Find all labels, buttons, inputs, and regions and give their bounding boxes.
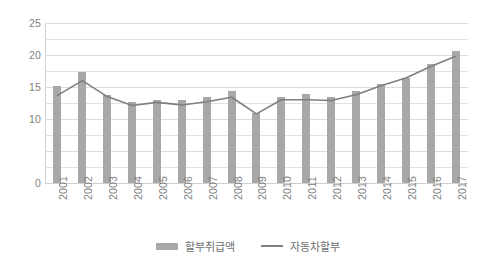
legend-bar-swatch-icon [156, 243, 178, 250]
x-axis-tick-label: 2013 [356, 176, 368, 200]
x-axis-tick-label: 2006 [182, 176, 194, 200]
bar[interactable] [78, 72, 86, 183]
x-axis-tick-slot: 2001 [45, 186, 70, 232]
x-axis-tick-slot: 2007 [194, 186, 219, 232]
bar-slot [443, 23, 468, 183]
x-axis-tick-slot: 2005 [145, 186, 170, 232]
legend-line-swatch-icon [261, 245, 283, 247]
chart-container: 010152025 200120022003200420052006200720… [0, 0, 496, 264]
y-axis-tick-label: 0 [7, 178, 41, 188]
bar-slot [368, 23, 393, 183]
bar[interactable] [427, 64, 435, 183]
legend-item-label: 할부취급액 [185, 238, 235, 254]
x-axis-tick-label: 2008 [232, 176, 244, 200]
x-axis-tick-slot: 2011 [294, 186, 319, 232]
x-axis-tick-label: 2010 [281, 176, 293, 200]
x-axis-tick-label: 2015 [406, 176, 418, 200]
x-axis-tick-slot: 2006 [169, 186, 194, 232]
bar-slot [219, 23, 244, 183]
bar[interactable] [203, 97, 211, 183]
x-axis-tick-slot: 2013 [344, 186, 369, 232]
plot-wrapper: 010152025 [0, 0, 496, 190]
x-axis-tick-slot: 2004 [120, 186, 145, 232]
y-axis-labels: 010152025 [0, 0, 41, 190]
bar[interactable] [302, 94, 310, 183]
legend-item-bar[interactable]: 할부취급액 [156, 238, 235, 254]
bar[interactable] [53, 86, 61, 183]
y-axis-tick-label: 15 [7, 82, 41, 92]
bar-slot [120, 23, 145, 183]
bar[interactable] [402, 78, 410, 183]
bar[interactable] [377, 84, 385, 183]
x-axis-tick-label: 2003 [107, 176, 119, 200]
x-axis-tick-label: 2014 [381, 176, 393, 200]
x-axis-tick-slot: 2009 [244, 186, 269, 232]
x-axis-tick-label: 2007 [207, 176, 219, 200]
x-axis-tick-slot: 2003 [95, 186, 120, 232]
x-axis-tick-label: 2004 [132, 176, 144, 200]
bar[interactable] [252, 113, 260, 183]
bar-slot [244, 23, 269, 183]
x-axis-tick-slot: 2002 [70, 186, 95, 232]
plot-area [45, 23, 468, 183]
bar-slot [393, 23, 418, 183]
x-axis-tick-label: 2012 [331, 176, 343, 200]
bar[interactable] [153, 100, 161, 183]
bar-slot [319, 23, 344, 183]
x-axis-tick-label: 2002 [82, 176, 94, 200]
x-axis-tick-label: 2016 [431, 176, 443, 200]
x-axis-tick-slot: 2010 [269, 186, 294, 232]
x-axis-tick-slot: 2008 [219, 186, 244, 232]
chart-legend: 할부취급액 자동차할부 [0, 236, 496, 256]
bar[interactable] [277, 97, 285, 183]
bar[interactable] [228, 91, 236, 183]
bar-slot [169, 23, 194, 183]
x-axis-tick-slot: 2012 [319, 186, 344, 232]
bar[interactable] [352, 91, 360, 183]
y-axis-tick-label: 20 [7, 50, 41, 60]
x-axis-tick-slot: 2014 [368, 186, 393, 232]
bar[interactable] [128, 102, 136, 183]
bar-slot [95, 23, 120, 183]
x-axis-tick-slot: 2017 [443, 186, 468, 232]
bar-slot [418, 23, 443, 183]
y-axis-tick-label: 10 [7, 114, 41, 124]
x-axis-tick-label: 2017 [456, 176, 468, 200]
bar[interactable] [327, 97, 335, 183]
bar-slot [45, 23, 70, 183]
bar[interactable] [103, 95, 111, 183]
bar-slot [194, 23, 219, 183]
x-axis-tick-slot: 2016 [418, 186, 443, 232]
x-axis-labels: 2001200220032004200520062007200820092010… [45, 186, 468, 232]
bar-slot [269, 23, 294, 183]
x-axis-tick-label: 2005 [157, 176, 169, 200]
x-axis-tick-slot: 2015 [393, 186, 418, 232]
bar[interactable] [178, 100, 186, 183]
legend-item-label: 자동차할부 [290, 238, 340, 254]
x-axis-tick-label: 2001 [57, 176, 69, 200]
x-axis-tick-label: 2009 [256, 176, 268, 200]
bar-slot [344, 23, 369, 183]
legend-item-line[interactable]: 자동차할부 [261, 238, 340, 254]
bar[interactable] [452, 51, 460, 183]
y-axis-tick-label: 25 [7, 18, 41, 28]
bar-slot [145, 23, 170, 183]
bar-slot [70, 23, 95, 183]
bar-slot [294, 23, 319, 183]
x-axis-tick-label: 2011 [306, 176, 318, 199]
